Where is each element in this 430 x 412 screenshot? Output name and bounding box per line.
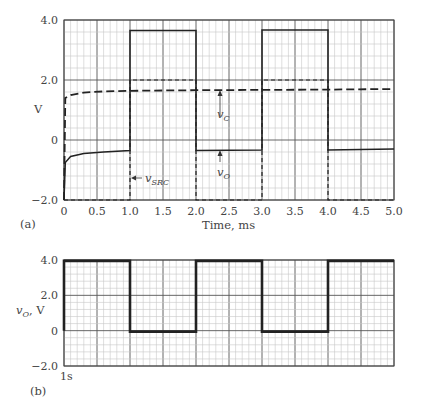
x-corner-label-b: 1s (60, 370, 73, 383)
x-tick-label: 1.5 (154, 205, 172, 218)
x-tick-label: 2.5 (220, 205, 238, 218)
x-tick-label: 4.5 (352, 205, 370, 218)
y-axis-label-b: vO, V (16, 303, 45, 319)
x-tick-label: 2.0 (187, 205, 205, 218)
y-tick-label: 0 (51, 325, 58, 338)
x-tick-label: 3.0 (253, 205, 271, 218)
y-tick-label: 2.0 (41, 289, 59, 302)
x-tick-label: 5.0 (385, 205, 403, 218)
y-tick-label: 0 (51, 134, 58, 147)
y-tick-label: −2.0 (31, 194, 58, 207)
svg-text:vC: vC (217, 107, 230, 123)
svg-text:vO, V: vO, V (16, 303, 45, 319)
x-axis-label-a: Time, ms (202, 218, 255, 232)
panel-label-a: (a) (20, 217, 36, 231)
annotation-vc: vC (217, 90, 230, 123)
y-tick-label: 2.0 (41, 74, 59, 87)
x-tick-label: 1.0 (121, 205, 139, 218)
y-tick-label: 4.0 (41, 254, 59, 267)
svg-text:vO: vO (217, 165, 231, 181)
x-tick-label: 0 (61, 205, 68, 218)
x-tick-label: 3.5 (286, 205, 304, 218)
x-tick-label: 4.0 (319, 205, 337, 218)
panel-label-b: (b) (30, 384, 46, 398)
chart-b: 4.02.00−2.0 (31, 254, 394, 373)
y-axis-label-a: V (33, 102, 43, 116)
oscilloscope-figure: 4.02.00−2.000.51.01.52.02.53.03.54.04.55… (0, 0, 430, 412)
y-tick-label: −2.0 (31, 360, 58, 373)
x-tick-label: 0.5 (88, 205, 106, 218)
annotation-vo: vO (217, 150, 231, 181)
y-tick-label: 4.0 (41, 14, 59, 27)
svg-text:vSRC: vSRC (145, 171, 169, 187)
